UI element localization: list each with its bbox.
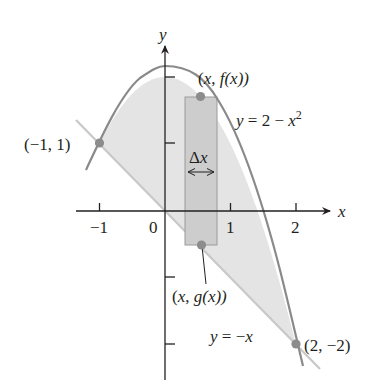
area-between-curves-figure: x y −1 0 1 2 Δx (−1, 1) (2, −2) (x, f(x)… xyxy=(0,0,386,392)
x-tick-label-2: 2 xyxy=(291,218,300,237)
right-intersection-label: (2, −2) xyxy=(304,336,350,355)
x-tick-label-1: 1 xyxy=(226,218,235,237)
delta-x-label: Δx xyxy=(189,148,208,167)
point-left-intersection xyxy=(95,138,104,147)
point-right-intersection xyxy=(291,339,300,348)
point-upper-fx xyxy=(196,92,205,101)
x-tick-label-0: 0 xyxy=(149,218,158,237)
x-axis-label: x xyxy=(337,202,346,221)
left-intersection-label: (−1, 1) xyxy=(24,135,70,154)
strip-rectangle xyxy=(185,97,217,245)
point-lower-gx xyxy=(197,240,206,249)
upper-point-label: (x, f(x)) xyxy=(198,69,249,88)
x-tick-label-neg1: −1 xyxy=(90,218,108,237)
diagram-canvas: x y −1 0 1 2 Δx (−1, 1) (2, −2) (x, f(x)… xyxy=(0,0,386,392)
line-equation-label: y = −x xyxy=(208,327,253,346)
parabola-equation-label: y = 2 − x2 xyxy=(234,108,302,130)
y-axis-label: y xyxy=(157,25,167,44)
lower-point-label: (x, g(x)) xyxy=(172,287,227,306)
